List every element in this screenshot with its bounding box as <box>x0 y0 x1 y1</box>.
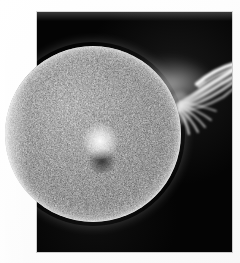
image-viewport <box>0 0 240 263</box>
disc-halo <box>1 42 185 226</box>
photographic-plate <box>37 12 232 252</box>
